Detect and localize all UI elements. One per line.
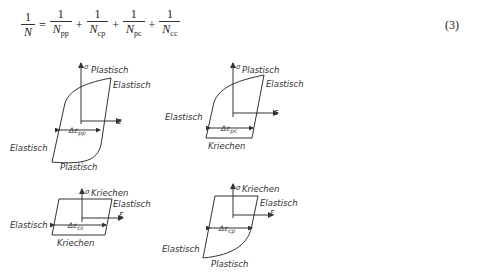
label-left: Elastisch: [162, 244, 200, 254]
label-right: Elastisch: [266, 79, 304, 89]
range-subscript: pp: [77, 129, 86, 137]
label-left: Elastisch: [10, 220, 48, 230]
label-top: Plastisch: [91, 65, 128, 75]
sigma-label: σ: [236, 63, 241, 71]
epsilon-label: ε: [119, 209, 124, 219]
range-label: Δεpp: [68, 126, 86, 137]
range-subscript: cc: [77, 224, 84, 231]
epsilon-label: ε: [117, 116, 122, 126]
label-top: Kriechen: [91, 188, 128, 198]
sigma-label: σ: [85, 188, 90, 196]
label-right: Elastisch: [113, 80, 151, 90]
range-label: Δεcc: [67, 221, 84, 231]
range-subscript: pc: [229, 127, 238, 135]
delta-epsilon: Δε: [220, 124, 230, 133]
label-left: Elastisch: [10, 143, 48, 153]
hysteresis-figure: σ Plastisch Elastisch ε Elastisch Plasti…: [0, 0, 487, 275]
label-top: Plastisch: [242, 65, 279, 75]
delta-epsilon: Δε: [218, 224, 228, 233]
sigma-label: σ: [236, 184, 241, 192]
label-bottom: Kriechen: [208, 141, 245, 151]
range-subscript: cp: [228, 227, 235, 235]
label-right: Elastisch: [260, 198, 298, 208]
diagram-cp: [203, 184, 273, 258]
label-bottom: Plastisch: [60, 162, 97, 172]
epsilon-label: ε: [274, 107, 279, 117]
label-bottom: Kriechen: [57, 238, 94, 248]
diagram-pp: [52, 63, 121, 163]
label-left: Elastisch: [165, 112, 203, 122]
delta-epsilon: Δε: [68, 126, 78, 135]
label-right: Elastisch: [113, 199, 151, 209]
range-label: Δεcp: [218, 224, 235, 235]
sigma-label: σ: [84, 63, 89, 71]
epsilon-label: ε: [270, 207, 275, 217]
delta-epsilon: Δε: [67, 221, 77, 230]
label-top: Kriechen: [242, 184, 279, 194]
range-label: Δεpc: [220, 124, 238, 135]
label-bottom: Plastisch: [211, 259, 248, 269]
